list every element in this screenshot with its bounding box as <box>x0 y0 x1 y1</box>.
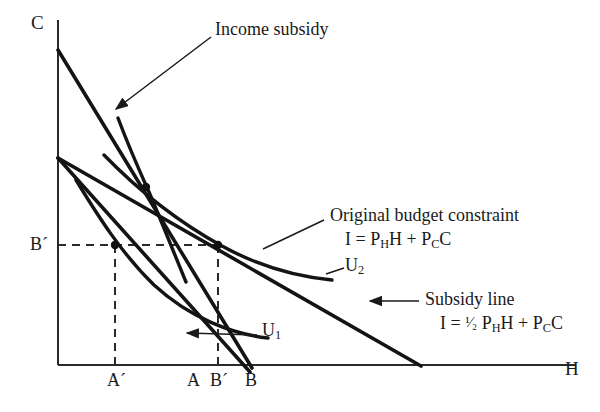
curve-U2-leader <box>326 268 344 274</box>
annotation-income-subsidy: Income subsidy <box>215 19 328 40</box>
sl-eq-prefix: I = <box>440 313 465 333</box>
price-subsidy-optimum-point <box>214 241 222 249</box>
indifference-curve-figure: C H A´ A B´ B B´ Income subsidy Original… <box>0 0 600 412</box>
curve-label-U2: U2 <box>345 255 364 278</box>
curve-label-U1-sub: 1 <box>275 328 281 342</box>
income-subsidy-optimum-point <box>142 183 150 191</box>
x-tick-label-b: B <box>245 370 257 391</box>
sl-eq-sub-c: C <box>543 321 551 335</box>
obc-eq-mid: H + P <box>389 229 431 249</box>
curve-label-U1: U1 <box>262 320 281 343</box>
y-tick-label-b-prime: B´ <box>30 234 48 255</box>
curve-label-U2-sub: 2 <box>358 263 364 277</box>
obc-eq-suffix: C <box>439 229 451 249</box>
y-axis-label: C <box>31 12 44 34</box>
original-budget-constraint-leader <box>263 220 324 249</box>
curve-label-U1-base: U <box>262 320 275 340</box>
annotation-original-budget-constraint-equation: I = PHH + PCC <box>345 229 451 252</box>
original-optimum-point <box>111 241 119 249</box>
original-budget-constraint-line <box>58 158 250 372</box>
sl-eq-sub-h: H <box>492 321 501 335</box>
annotation-subsidy-line-equation: I = ¹⁄₂ PHH + PCC <box>440 313 563 336</box>
sl-eq-fraction: ¹⁄₂ <box>465 314 477 330</box>
sl-eq-mid1: P <box>477 313 492 333</box>
obc-eq-sub-h: H <box>380 237 389 251</box>
obc-eq-prefix: I = P <box>345 229 380 249</box>
sl-eq-suffix: C <box>551 313 563 333</box>
sl-eq-mid2: H + P <box>501 313 543 333</box>
annotation-original-budget-constraint-title: Original budget constraint <box>330 205 519 226</box>
curve-label-U2-base: U <box>345 255 358 275</box>
income-subsidy-leader <box>116 37 211 109</box>
x-tick-label-b-prime: B´ <box>210 370 228 391</box>
dashed-guides-group <box>58 245 218 365</box>
x-tick-label-a-prime: A´ <box>107 370 126 391</box>
x-axis-label: H <box>565 358 579 380</box>
tangency-points-group <box>111 183 222 249</box>
annotation-subsidy-line-title: Subsidy line <box>425 289 515 310</box>
curve-U1 <box>76 180 268 338</box>
x-tick-label-a: A <box>187 370 200 391</box>
